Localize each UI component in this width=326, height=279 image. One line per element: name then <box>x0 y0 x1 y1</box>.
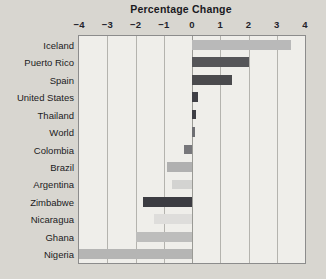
y-tick-label: Zimbabwe <box>30 196 74 207</box>
y-tick-label: Brazil <box>50 161 74 172</box>
bar-row <box>79 232 305 242</box>
y-tick-label: Nicaragua <box>31 214 74 225</box>
bar-row <box>79 214 305 224</box>
bar-row <box>79 92 305 102</box>
y-tick-label: Iceland <box>43 39 74 50</box>
chart-figure: Percentage Change −4−3−2−101234 IcelandP… <box>0 0 326 279</box>
x-tick-label: 2 <box>246 19 251 30</box>
bar <box>184 145 192 155</box>
x-tick-label: 4 <box>302 19 307 30</box>
bar-row <box>79 75 305 85</box>
x-tick-label: −3 <box>102 19 113 30</box>
bar <box>192 127 195 137</box>
y-tick-label: Colombia <box>34 144 74 155</box>
plot-area <box>78 35 306 264</box>
bar <box>136 232 193 242</box>
y-tick-label: Nigeria <box>44 249 74 260</box>
chart-title: Percentage Change <box>0 3 326 15</box>
y-tick-label: Thailand <box>38 109 74 120</box>
y-tick-label: United States <box>17 92 74 103</box>
bar <box>192 40 291 50</box>
y-tick-label: Ghana <box>45 231 74 242</box>
bar <box>167 162 192 172</box>
bar <box>143 197 192 207</box>
y-tick-label: World <box>49 127 74 138</box>
bar-row <box>79 57 305 67</box>
x-tick-label: 3 <box>274 19 279 30</box>
x-tick-label: 0 <box>189 19 194 30</box>
bar <box>172 180 192 190</box>
bar-series <box>79 36 305 263</box>
bar-row <box>79 145 305 155</box>
bar-row <box>79 127 305 137</box>
bar <box>192 57 249 67</box>
y-tick-label: Puerto Rico <box>24 57 74 68</box>
bar <box>79 249 192 259</box>
bar-row <box>79 197 305 207</box>
y-tick-label: Argentina <box>33 179 74 190</box>
bar <box>192 110 196 120</box>
y-tick-label: Spain <box>50 74 74 85</box>
bar-row <box>79 110 305 120</box>
x-tick-label: 1 <box>218 19 223 30</box>
x-tick-label: −1 <box>158 19 169 30</box>
y-axis-category-labels: IcelandPuerto RicoSpainUnited StatesThai… <box>0 35 74 264</box>
bar-row <box>79 40 305 50</box>
bar-row <box>79 180 305 190</box>
bar-row <box>79 162 305 172</box>
bar <box>154 214 192 224</box>
x-tick-label: −2 <box>130 19 141 30</box>
x-axis-tick-labels: −4−3−2−101234 <box>0 19 326 32</box>
bar <box>192 92 198 102</box>
bar-row <box>79 249 305 259</box>
x-tick-label: −4 <box>74 19 85 30</box>
bar <box>192 75 232 85</box>
